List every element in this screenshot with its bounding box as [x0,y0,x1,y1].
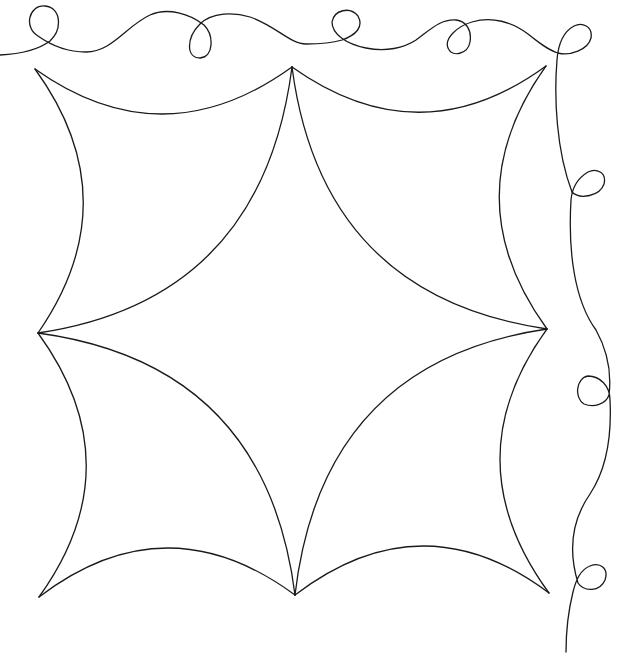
motif-inner-top-right-arc [292,67,547,329]
motif-inner-bottom-right-arc [295,329,547,595]
motif-inner-bottom-left-arc [38,333,295,595]
motif-bottom-left-arc [39,548,295,597]
motif-inner-top-left-arc [38,67,292,333]
motif-top-left-arc [35,67,292,114]
motif-left-upper-arc [35,69,83,333]
motif-right-upper-arc [499,66,547,329]
motif-left-lower-arc [38,333,86,597]
pattern-drawing [0,0,618,658]
motif-top-right-arc [292,66,546,112]
motif-bottom-right-arc [295,546,549,595]
figure-caption [0,649,618,658]
right-meander-border [566,171,610,653]
pattern-canvas [0,0,618,658]
motif-right-lower-arc [500,329,549,593]
